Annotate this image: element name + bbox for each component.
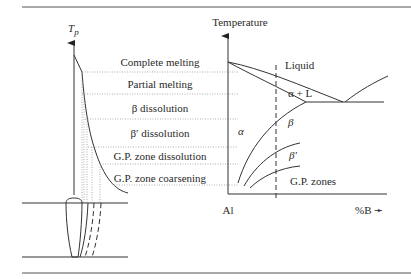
welding-heat-affected-zone-diagram: Tp Complete melting Partial melting β di… [0, 0, 411, 279]
tp-axis-label: Tp [68, 22, 79, 37]
label-liquid: Liquid [285, 59, 315, 71]
label-beta: β [287, 116, 294, 128]
zone-beta-dissolution: β dissolution [132, 102, 189, 114]
weld-bead [66, 198, 82, 257]
x-axis-right-label: %B ➛ [355, 204, 383, 216]
beta-solvus [238, 102, 306, 183]
zone-partial-melting: Partial melting [127, 78, 193, 90]
zone-gp-coarsening: G.P. zone coarsening [114, 172, 207, 184]
x-axis-left-label: Al [223, 204, 234, 216]
zone-gp-dissolution: G.P. zone dissolution [114, 150, 207, 162]
zone-beta-prime-dissolution: β′ dissolution [130, 127, 190, 139]
label-alpha: α [238, 125, 244, 137]
temperature-axis-label: Temperature [212, 16, 268, 28]
label-alpha-plus-liquid: α + L [288, 87, 312, 99]
label-beta-prime: β′ [288, 149, 297, 161]
label-gp-zones: G.P. zones [290, 175, 336, 187]
zone-complete-melting: Complete melting [120, 56, 200, 68]
